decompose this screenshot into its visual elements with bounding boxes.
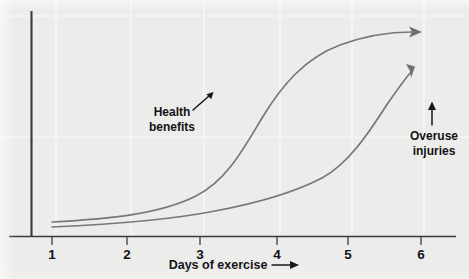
health-benefits-label-line-1: Health [154,105,191,119]
overuse-injuries-label-line-1: Overuse [410,129,458,143]
chart-figure: 1 2 3 4 5 6 Health benefits Overuse inju [0,0,469,279]
series-health-benefits [52,27,422,223]
health-benefits-label-line-2: benefits [149,120,195,134]
exercise-chart-svg: 1 2 3 4 5 6 Health benefits Overuse inju [0,0,469,279]
x-tick-label-5: 5 [344,247,352,262]
x-tick-label-6: 6 [417,247,425,262]
overuse-injuries-label-line-2: injuries [413,144,456,158]
x-axis-title: Days of exercise [169,258,268,272]
x-axis-title-arrow-head-icon [290,261,299,269]
paper-gridlines [0,0,469,236]
x-tick-label-4: 4 [273,247,281,262]
chart-axes [9,11,456,237]
health-benefits-arrow-icon [193,96,209,110]
series-overuse-injuries [52,64,415,227]
x-axis-ticks [52,236,421,245]
x-tick-label-1: 1 [48,247,56,262]
annotation-overuse-injuries: Overuse injuries [410,102,458,159]
health-benefits-curve [52,32,412,222]
overuse-injuries-arrow-head-icon [428,102,436,111]
overuse-injuries-curve [52,72,411,227]
x-tick-label-2: 2 [123,247,131,262]
